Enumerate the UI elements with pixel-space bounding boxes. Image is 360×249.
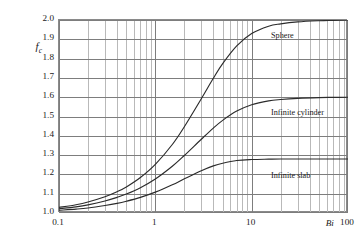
y-axis-tick-label: 1.3: [26, 149, 54, 158]
y-axis-tick-label: 1.1: [26, 188, 54, 197]
curve-label-infinite-cylinder: Infinite cylinder: [271, 108, 324, 117]
y-axis-tick-label: 1.4: [26, 130, 54, 139]
y-axis-tick-label: 1.8: [26, 53, 54, 62]
x-axis-tick-label: 0.1: [52, 218, 63, 227]
x-axis-tick-label: 10: [246, 218, 255, 227]
y-axis-tick-labels: 1.01.11.21.31.41.51.61.71.81.92.0: [26, 0, 54, 249]
y-axis-tick-label: 1.6: [26, 92, 54, 101]
y-axis-tick-label: 1.5: [26, 111, 54, 120]
curve-infinite-slab: [59, 159, 348, 210]
chart-figure: fc 1.01.11.21.31.41.51.61.71.81.92.0 Sph…: [0, 0, 360, 249]
x-axis-label: Bi: [326, 218, 334, 228]
y-axis-tick-label: 1.9: [26, 34, 54, 43]
y-axis-tick-label: 2.0: [26, 14, 54, 23]
y-axis-tick-label: 1.7: [26, 72, 54, 81]
y-axis-tick-label: 1.2: [26, 169, 54, 178]
x-axis-tick-label: 100: [340, 218, 354, 227]
curve-label-infinite-slab: Infinite slab: [271, 171, 310, 180]
x-axis-tick-labels: 0.1110100: [0, 214, 360, 234]
curve-label-sphere: Sphere: [271, 31, 294, 40]
x-axis-tick-label: 1: [152, 218, 157, 227]
